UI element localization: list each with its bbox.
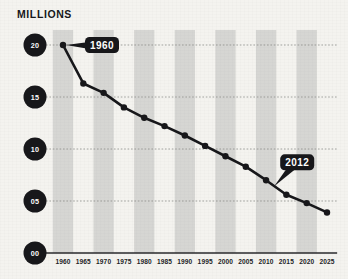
data-point-marker: [222, 153, 228, 159]
data-point-marker: [121, 104, 127, 110]
data-point-marker: [60, 42, 66, 48]
y-tick-label: 10: [31, 145, 40, 154]
x-tick-label: 2000: [218, 258, 233, 265]
background-band: [175, 30, 195, 253]
background-band: [215, 30, 235, 253]
y-tick-label: 00: [31, 249, 40, 258]
y-tick-label: 20: [31, 41, 40, 50]
chart-title: MILLIONS: [17, 8, 72, 20]
data-point-marker: [243, 163, 249, 169]
background-band: [297, 30, 317, 253]
callout-label: 1960: [90, 40, 114, 51]
x-tick-label: 2015: [279, 258, 294, 265]
x-tick-label: 2005: [238, 258, 253, 265]
callout-1960: 1960: [66, 37, 119, 53]
x-axis-tick-labels: 1960196519701975198019851990199520002005…: [55, 258, 334, 265]
x-tick-label: 1975: [116, 258, 131, 265]
data-point-marker: [80, 80, 86, 86]
y-axis-tick-bubbles: 2015100500: [24, 34, 47, 265]
x-tick-label: 2025: [319, 258, 334, 265]
background-band: [134, 30, 154, 253]
background-bands: [53, 30, 317, 253]
data-point-marker: [283, 192, 289, 198]
background-band: [256, 30, 276, 253]
data-point-marker: [324, 209, 330, 215]
data-point-marker: [141, 115, 147, 121]
callout-label: 2012: [285, 157, 309, 168]
line-chart-canvas: 1960196519701975198019851990199520002005…: [0, 0, 348, 279]
x-tick-label: 1960: [55, 258, 70, 265]
data-point-marker: [100, 90, 106, 96]
x-tick-label: 1970: [96, 258, 111, 265]
data-point-marker: [303, 200, 309, 206]
callout-pointer: [274, 169, 295, 186]
data-point-marker: [182, 132, 188, 138]
x-tick-label: 1990: [177, 258, 192, 265]
background-band: [93, 30, 113, 253]
data-point-marker: [263, 177, 269, 183]
data-point-marker: [161, 123, 167, 129]
x-tick-label: 1980: [137, 258, 152, 265]
x-tick-label: 2020: [299, 258, 314, 265]
y-tick-label: 05: [31, 197, 40, 206]
data-point-marker: [202, 143, 208, 149]
x-tick-label: 2010: [259, 258, 274, 265]
x-tick-label: 1965: [76, 258, 91, 265]
y-tick-label: 15: [31, 93, 40, 102]
x-tick-label: 1995: [198, 258, 213, 265]
x-tick-label: 1985: [157, 258, 172, 265]
background-band: [53, 30, 73, 253]
